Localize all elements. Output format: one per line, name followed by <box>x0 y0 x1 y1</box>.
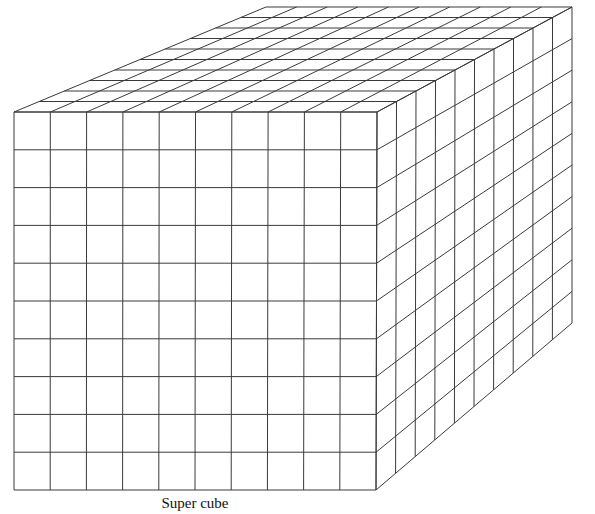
cube-right-face-grid <box>376 7 572 490</box>
front-face-grid-line <box>340 112 341 490</box>
figure-caption: Super cube <box>0 494 390 512</box>
front-face-grid-line <box>231 112 232 490</box>
front-face-grid-line <box>267 112 268 490</box>
front-face-grid-line <box>304 112 305 490</box>
cube-front-face-grid <box>14 112 377 490</box>
super-cube-diagram <box>0 0 595 514</box>
cube-top-face-grid <box>14 7 572 112</box>
